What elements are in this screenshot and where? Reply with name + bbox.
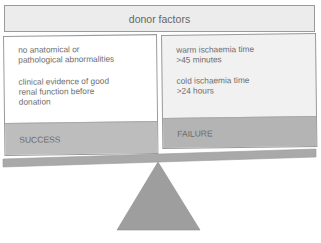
balance-graphic <box>0 0 321 243</box>
fulcrum-triangle-icon <box>117 162 200 230</box>
balance-diagram: donor factors no anatomical or pathologi… <box>0 0 321 243</box>
